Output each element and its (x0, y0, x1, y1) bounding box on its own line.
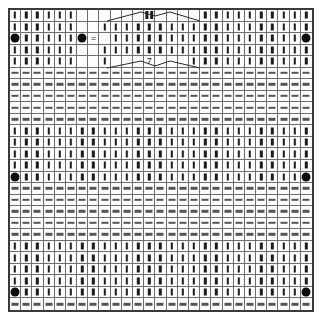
stitch-cell[interactable] (267, 229, 278, 241)
stitch-cell[interactable] (223, 33, 234, 45)
stitch-cell[interactable] (290, 148, 301, 160)
stitch-cell[interactable] (278, 172, 289, 184)
stitch-cell[interactable] (301, 298, 312, 310)
stitch-cell[interactable] (55, 298, 66, 310)
stitch-cell[interactable] (200, 218, 211, 230)
stitch-cell[interactable] (133, 137, 144, 149)
stitch-cell[interactable] (211, 56, 222, 68)
stitch-cell[interactable] (88, 68, 99, 80)
stitch-cell[interactable] (32, 125, 43, 137)
stitch-cell[interactable] (111, 68, 122, 80)
stitch-cell[interactable] (290, 183, 301, 195)
stitch-cell[interactable] (77, 298, 88, 310)
stitch-cell[interactable] (133, 79, 144, 91)
stitch-cell[interactable] (77, 56, 88, 68)
stitch-cell[interactable] (99, 298, 110, 310)
stitch-cell[interactable] (223, 241, 234, 253)
stitch-cell[interactable] (155, 56, 166, 68)
stitch-cell[interactable] (122, 125, 133, 137)
stitch-cell[interactable] (111, 218, 122, 230)
stitch-cell[interactable] (44, 33, 55, 45)
stitch-cell[interactable] (234, 172, 245, 184)
stitch-cell[interactable] (10, 125, 21, 137)
stitch-cell[interactable] (301, 275, 312, 287)
stitch-cell[interactable] (211, 22, 222, 34)
stitch-cell[interactable] (189, 229, 200, 241)
stitch-cell[interactable] (245, 172, 256, 184)
stitch-cell[interactable] (144, 102, 155, 114)
stitch-cell[interactable] (234, 114, 245, 126)
stitch-cell[interactable] (44, 56, 55, 68)
stitch-cell[interactable] (211, 183, 222, 195)
stitch-cell[interactable] (200, 172, 211, 184)
stitch-cell[interactable] (167, 229, 178, 241)
stitch-cell[interactable] (21, 114, 32, 126)
stitch-cell[interactable] (245, 137, 256, 149)
stitch-cell[interactable] (211, 218, 222, 230)
stitch-cell[interactable] (133, 172, 144, 184)
stitch-cell[interactable] (167, 22, 178, 34)
stitch-cell[interactable] (290, 125, 301, 137)
stitch-cell[interactable] (155, 218, 166, 230)
stitch-cell[interactable] (133, 183, 144, 195)
stitch-cell[interactable] (301, 137, 312, 149)
stitch-cell[interactable] (267, 206, 278, 218)
stitch-cell[interactable] (111, 125, 122, 137)
stitch-cell[interactable] (178, 33, 189, 45)
stitch-cell[interactable] (133, 298, 144, 310)
stitch-cell[interactable] (223, 10, 234, 22)
stitch-cell[interactable] (21, 172, 32, 184)
stitch-cell[interactable] (189, 56, 200, 68)
stitch-cell[interactable] (245, 229, 256, 241)
stitch-cell[interactable] (66, 298, 77, 310)
stitch-cell[interactable] (301, 229, 312, 241)
stitch-cell[interactable] (301, 287, 312, 299)
stitch-cell[interactable] (189, 102, 200, 114)
stitch-cell[interactable] (200, 33, 211, 45)
stitch-cell[interactable] (133, 241, 144, 253)
stitch-cell[interactable] (234, 137, 245, 149)
stitch-cell[interactable] (256, 125, 267, 137)
stitch-cell[interactable] (133, 160, 144, 172)
stitch-cell[interactable] (99, 264, 110, 276)
stitch-cell[interactable] (167, 218, 178, 230)
stitch-cell[interactable] (10, 241, 21, 253)
stitch-cell[interactable] (55, 125, 66, 137)
stitch-cell[interactable] (278, 298, 289, 310)
stitch-cell[interactable] (55, 252, 66, 264)
stitch-cell[interactable] (267, 195, 278, 207)
stitch-cell[interactable] (278, 252, 289, 264)
stitch-cell[interactable] (234, 91, 245, 103)
stitch-cell[interactable] (77, 275, 88, 287)
stitch-cell[interactable] (133, 91, 144, 103)
stitch-cell[interactable] (144, 195, 155, 207)
stitch-cell[interactable] (66, 206, 77, 218)
stitch-cell[interactable] (189, 91, 200, 103)
stitch-cell[interactable] (290, 33, 301, 45)
stitch-cell[interactable] (88, 241, 99, 253)
stitch-cell[interactable] (66, 33, 77, 45)
stitch-cell[interactable] (189, 160, 200, 172)
stitch-cell[interactable] (144, 10, 155, 22)
stitch-cell[interactable] (278, 79, 289, 91)
stitch-cell[interactable] (155, 160, 166, 172)
stitch-cell[interactable] (44, 275, 55, 287)
stitch-cell[interactable] (211, 137, 222, 149)
stitch-cell[interactable] (99, 195, 110, 207)
stitch-cell[interactable] (301, 148, 312, 160)
stitch-cell[interactable] (256, 10, 267, 22)
stitch-cell[interactable] (278, 218, 289, 230)
stitch-cell[interactable] (99, 160, 110, 172)
stitch-cell[interactable] (144, 241, 155, 253)
stitch-cell[interactable] (200, 114, 211, 126)
stitch-cell[interactable] (234, 195, 245, 207)
stitch-cell[interactable] (99, 68, 110, 80)
stitch-cell[interactable] (290, 56, 301, 68)
stitch-cell[interactable] (10, 218, 21, 230)
stitch-cell[interactable] (66, 264, 77, 276)
stitch-cell[interactable] (88, 287, 99, 299)
stitch-cell[interactable] (278, 22, 289, 34)
stitch-cell[interactable] (301, 160, 312, 172)
stitch-cell[interactable] (10, 10, 21, 22)
stitch-cell[interactable] (167, 68, 178, 80)
